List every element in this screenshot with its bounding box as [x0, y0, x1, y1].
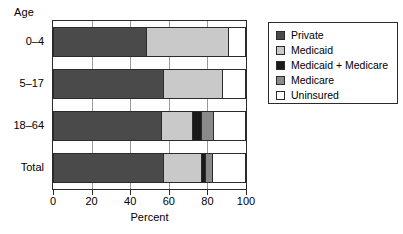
legend-label: Medicaid [291, 45, 333, 56]
bar-segment[interactable] [222, 70, 245, 98]
y-axis-title: Age [14, 6, 34, 18]
bar-segment[interactable] [54, 70, 163, 98]
legend-label: Medicare [291, 75, 334, 86]
y-tick-label: 5–17 [20, 77, 44, 89]
y-tick-label: 18–64 [13, 119, 44, 131]
plot-area [52, 20, 247, 190]
bar-segment[interactable] [163, 154, 201, 182]
bar-segment[interactable] [54, 154, 163, 182]
legend-swatch-icon [276, 31, 285, 40]
bar-row [53, 153, 246, 183]
x-tick-label: 40 [124, 195, 136, 207]
x-tick-label: 0 [50, 195, 56, 207]
legend-label: Private [291, 30, 324, 41]
bar-segment[interactable] [192, 112, 202, 140]
bar-segment[interactable] [201, 112, 212, 140]
x-tick-label: 80 [201, 195, 213, 207]
bar-segment[interactable] [161, 112, 192, 140]
bar-segment[interactable] [54, 112, 161, 140]
legend-label: Medicaid + Medicare [291, 60, 388, 71]
x-tick-label: 20 [85, 195, 97, 207]
legend-item[interactable]: Medicare [276, 73, 397, 87]
legend-swatch-icon [276, 46, 285, 55]
legend-item[interactable]: Medicaid [276, 43, 397, 57]
legend-swatch-icon [276, 61, 285, 70]
bar-row [53, 69, 246, 99]
bar-segment[interactable] [54, 28, 146, 56]
bar-segment[interactable] [146, 28, 228, 56]
chart-figure: Age 0–45–1718–64Total 020406080100 Perce… [0, 0, 403, 234]
x-tick-label: 60 [163, 195, 175, 207]
x-axis-tick-labels: 020406080100 [0, 195, 403, 209]
bar-segment[interactable] [205, 154, 213, 182]
stacked-bar[interactable] [53, 153, 246, 183]
bar-segment[interactable] [163, 70, 222, 98]
y-tick-label: 0–4 [26, 35, 44, 47]
y-tick-label: Total [21, 161, 44, 173]
y-axis-tick-labels: 0–45–1718–64Total [0, 20, 48, 190]
bar-row [53, 111, 246, 141]
x-axis-title: Percent [52, 211, 247, 223]
legend-item[interactable]: Uninsured [276, 88, 397, 102]
legend-item[interactable]: Medicaid + Medicare [276, 58, 397, 72]
stacked-bar[interactable] [53, 27, 246, 57]
stacked-bar[interactable] [53, 69, 246, 99]
legend: PrivateMedicaidMedicaid + MedicareMedica… [268, 22, 398, 104]
bar-segment[interactable] [228, 28, 245, 56]
legend-swatch-icon [276, 91, 285, 100]
stacked-bar[interactable] [53, 111, 246, 141]
bar-segment[interactable] [212, 154, 244, 182]
bar-segment[interactable] [213, 112, 245, 140]
legend-swatch-icon [276, 76, 285, 85]
legend-item[interactable]: Private [276, 28, 397, 42]
x-tick-label: 100 [237, 195, 255, 207]
legend-label: Uninsured [291, 90, 339, 101]
bar-row [53, 27, 246, 57]
